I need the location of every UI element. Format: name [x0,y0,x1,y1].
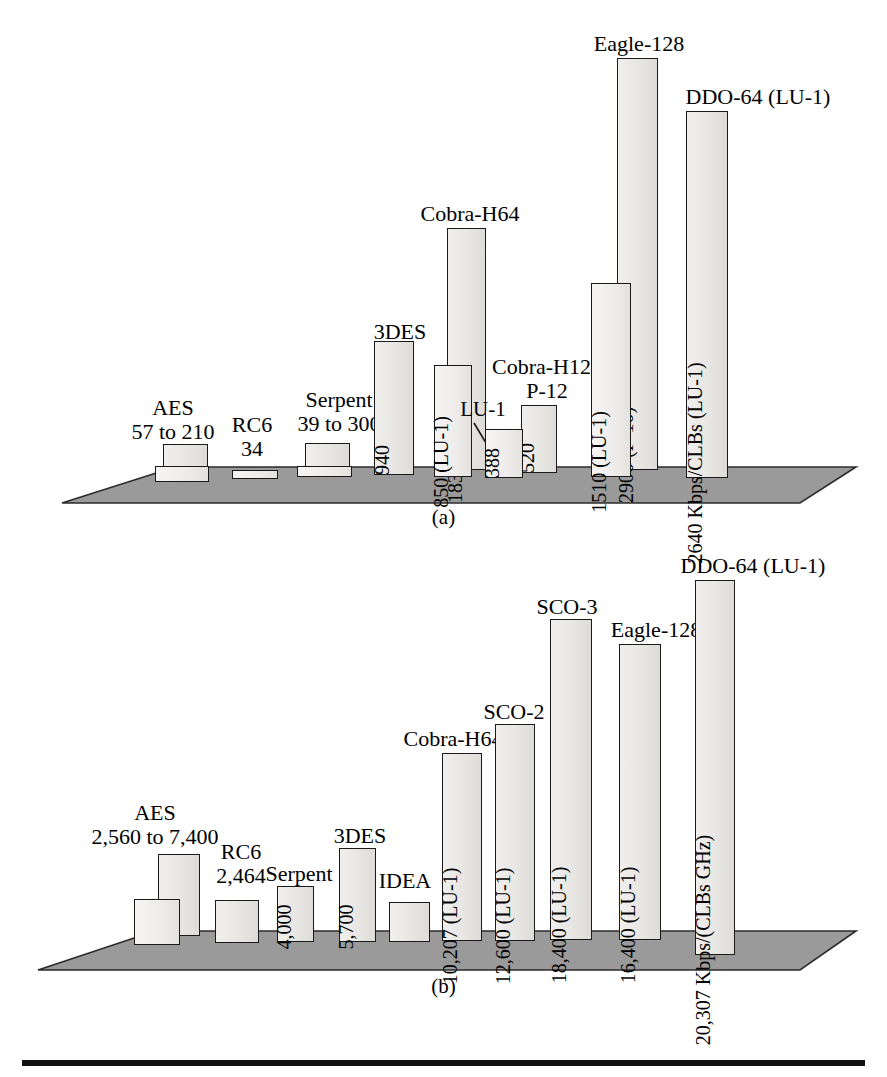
bar-3des-b[interactable]: 5,700 [339,848,376,942]
bar-idea-b[interactable] [389,902,430,942]
bar-cobra-h64-front-value-a: 850 (LU-1) [430,416,453,508]
bar-ddo-64-value-a: 2640 Kbps/CLBs (LU-1) [684,362,707,563]
bar-serpent-value-b: 4,000 [273,905,296,950]
bar-cobra-h64-b[interactable]: 10,207 (LU-1) [442,753,482,941]
bar-aes-front-b[interactable] [134,899,180,945]
bar-rc6-a[interactable] [232,470,278,479]
group-label-cobra-h64-a: Cobra-H64 [390,202,550,227]
bar-cobra-h128-back-a[interactable]: 520 [521,405,557,473]
bar-serpent-b[interactable]: 4,000 [277,886,314,942]
group-label-sco-3-b: SCO-3 [504,595,630,620]
bar-ddo-64-b[interactable]: 20,307 Kbps/(CLBs GHz) [695,580,735,955]
aes-name-b: AES [60,801,250,825]
bar-cobra-h128-front-a[interactable]: 388 [485,429,523,478]
bar-sco-2-b[interactable]: 12,600 (LU-1) [495,724,535,941]
bar-eagle-128-front-value-a: 1510 (LU-1) [588,411,611,513]
bar-3des-value-b: 5,700 [335,905,358,950]
bar-serpent-front-a[interactable] [297,466,352,477]
cobra-h128-lu-annotation-a: LU-1 [452,398,514,422]
figure-container: AES 57 to 210 RC6 34 Serpent 39 to 300 3… [0,0,887,1077]
bar-ddo-64-value-b: 20,307 Kbps/(CLBs GHz) [692,835,715,1046]
bar-eagle-128-b[interactable]: 16,400 (LU-1) [619,644,661,940]
chart-panel-b: AES 2,560 to 7,400 RC6 2,464 Serpent 4,0… [0,540,887,1010]
chart-panel-a: AES 57 to 210 RC6 34 Serpent 39 to 300 3… [0,0,887,540]
group-label-eagle-128-a: Eagle-128 [556,32,722,57]
bar-sco-2-value-b: 12,600 (LU-1) [492,868,515,985]
bottom-rule [22,1060,865,1066]
bar-eagle-128-value-b: 16,400 (LU-1) [617,867,640,984]
bar-ddo-64-a[interactable]: 2640 Kbps/CLBs (LU-1) [686,111,728,478]
bar-sco-3-b[interactable]: 18,400 (LU-1) [550,619,592,940]
bar-cobra-h128-front-value-a: 388 [481,448,504,478]
bar-cobra-h64-value-b: 10,207 (LU-1) [439,868,462,985]
bar-3des-value-a: 940 [371,445,394,475]
rc6-value-a: 34 [217,437,287,461]
caption-a: (a) [0,505,887,530]
bar-sco-3-value-b: 18,400 (LU-1) [548,867,571,984]
bar-3des-a[interactable]: 940 [374,341,414,475]
group-label-ddo-64-b: DDO-64 (LU-1) [638,554,868,579]
caption-b: (b) [0,974,887,999]
group-label-ddo-64-a: DDO-64 (LU-1) [643,85,873,110]
group-label-3des-b: 3DES [305,824,415,849]
bar-rc6-b[interactable] [215,900,259,943]
bar-eagle-128-front-a[interactable]: 1510 (LU-1) [591,283,631,477]
bar-aes-front-a[interactable] [155,466,209,482]
